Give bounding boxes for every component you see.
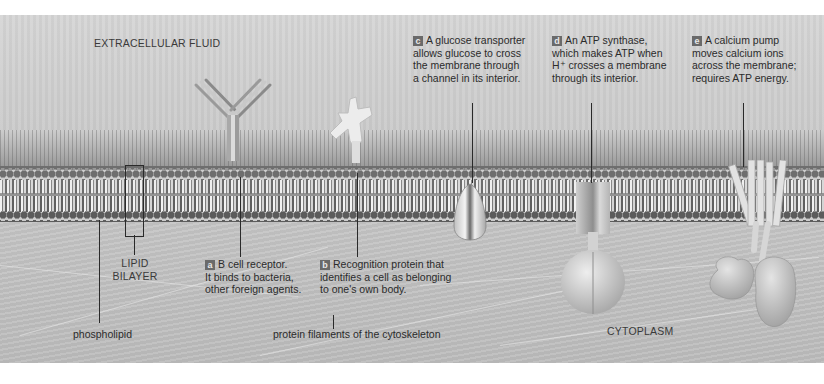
atp-synthase-icon bbox=[556, 182, 626, 322]
callout-c: cA glucose transporter allows glucose to… bbox=[413, 34, 525, 84]
callout-d-line: An ATP synthase, bbox=[565, 34, 648, 46]
leader-d bbox=[591, 103, 592, 183]
callout-c-line: a channel in its interior. bbox=[413, 72, 525, 85]
cytoplasm-label: CYTOPLASM bbox=[607, 325, 673, 338]
cytoskeleton-label: protein filaments of the cytoskeleton bbox=[273, 328, 441, 341]
callout-e-line: requires ATP energy. bbox=[692, 72, 796, 85]
extracellular-fluid-label: EXTRACELLULAR FLUID bbox=[94, 37, 220, 50]
callout-b: bRecognition protein that identifies a c… bbox=[320, 258, 451, 296]
callout-c-line: the membrane through bbox=[413, 59, 525, 72]
lipid-bilayer-label: LIPID BILAYER bbox=[107, 257, 163, 282]
callout-d-line: through its interior. bbox=[552, 72, 667, 85]
callout-d-line: H⁺ crosses a membrane bbox=[552, 59, 667, 72]
badge-d: d bbox=[552, 36, 562, 46]
callout-e-line: A calcium pump bbox=[705, 34, 779, 46]
leader-a bbox=[240, 177, 241, 257]
badge-c: c bbox=[413, 36, 423, 46]
lipid-label-line1: LIPID bbox=[107, 257, 163, 270]
callout-b-line: Recognition protein that bbox=[333, 258, 444, 270]
callout-b-line: identifies a cell as belonging bbox=[320, 271, 451, 284]
phospholipid-label: phospholipid bbox=[73, 328, 132, 341]
callout-a-line: other foreign agents. bbox=[205, 283, 301, 296]
callout-c-line: A glucose transporter bbox=[426, 34, 525, 46]
callout-a-line: B cell receptor. bbox=[218, 258, 287, 270]
calcium-pump-icon bbox=[700, 160, 810, 335]
recognition-protein-icon bbox=[322, 95, 382, 165]
callout-e: eA calcium pump moves calcium ions acros… bbox=[692, 34, 796, 84]
plasma-membrane-figure: EXTRACELLULAR FLUID CYTOPLASM LIPID BILA… bbox=[0, 15, 824, 363]
lipid-bilayer-bracket bbox=[125, 165, 144, 237]
glucose-transporter-icon bbox=[452, 182, 488, 242]
callout-b-line: to one's own body. bbox=[320, 283, 451, 296]
callout-e-line: across the membrane; bbox=[692, 59, 796, 72]
leader-lipid-bilayer bbox=[134, 235, 135, 255]
badge-a: a bbox=[205, 260, 215, 270]
leader-b bbox=[357, 173, 358, 257]
callout-a: aB cell receptor. It binds to bacteria, … bbox=[205, 258, 301, 296]
callout-a-line: It binds to bacteria, bbox=[205, 271, 301, 284]
leader-e bbox=[743, 103, 744, 167]
callout-d-line: which makes ATP when bbox=[552, 47, 667, 60]
b-cell-receptor-icon bbox=[188, 77, 278, 167]
leader-phospholipid bbox=[99, 220, 100, 323]
lipid-label-line2: BILAYER bbox=[107, 270, 163, 283]
callout-d: dAn ATP synthase, which makes ATP when H… bbox=[552, 34, 667, 84]
callout-e-line: moves calcium ions bbox=[692, 47, 796, 60]
leader-cytoskeleton bbox=[333, 315, 334, 329]
leader-c bbox=[472, 103, 473, 183]
badge-e: e bbox=[692, 36, 702, 46]
badge-b: b bbox=[320, 260, 330, 270]
callout-c-line: allows glucose to cross bbox=[413, 47, 525, 60]
